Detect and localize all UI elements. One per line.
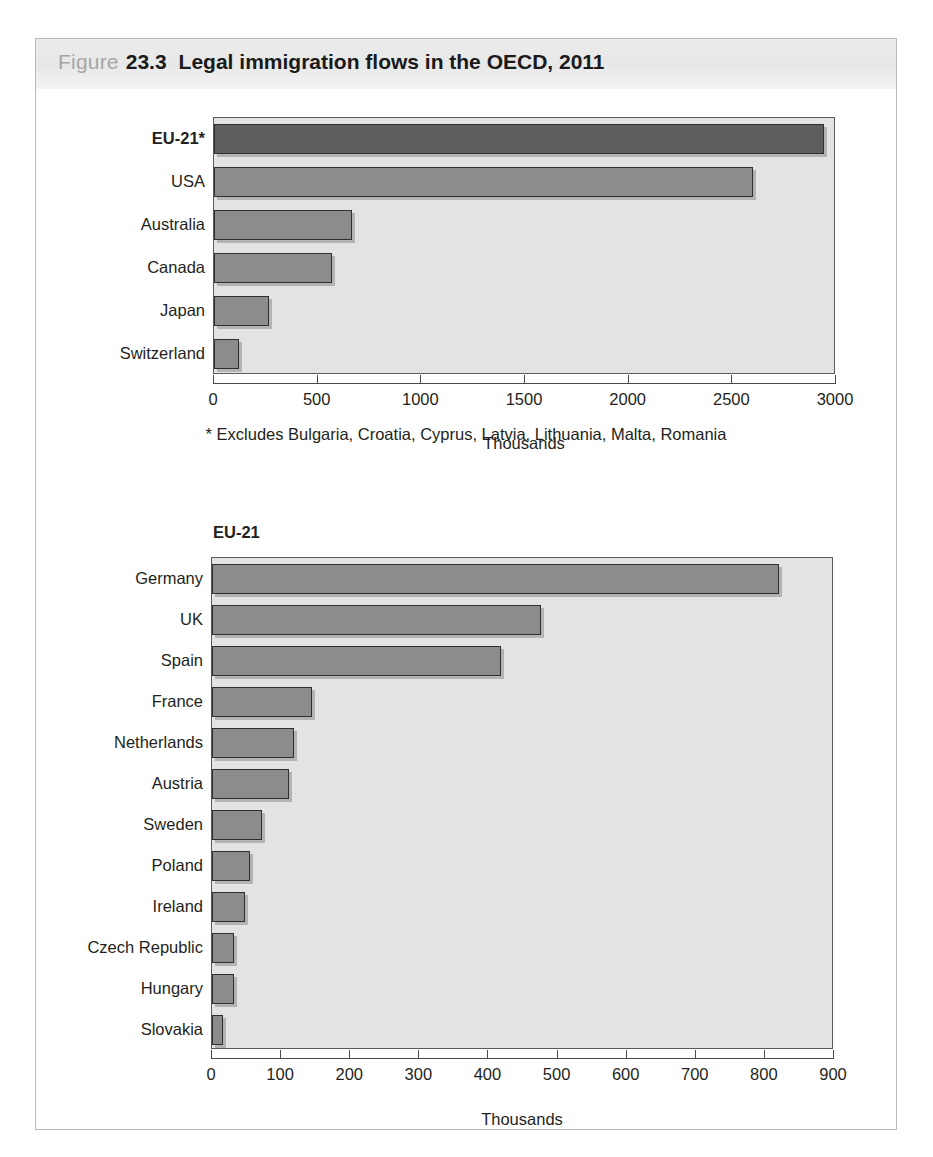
bar[interactable]	[212, 564, 779, 594]
axis-tick-label: 300	[378, 1066, 458, 1083]
axis-tick-label: 0	[171, 1066, 251, 1083]
bar-row	[212, 728, 832, 758]
category-label: Slovakia	[36, 1021, 203, 1038]
axis-tick	[420, 375, 421, 384]
bar[interactable]	[214, 210, 352, 240]
category-label: Japan	[36, 302, 205, 319]
bar[interactable]	[214, 124, 824, 154]
category-label: Germany	[36, 570, 203, 587]
axis-line	[211, 1058, 833, 1059]
category-label: Czech Republic	[36, 939, 203, 956]
axis-tick-label: 600	[586, 1066, 666, 1083]
figure-label: Figure	[58, 50, 119, 73]
axis-tick	[317, 375, 318, 384]
bar[interactable]	[212, 810, 262, 840]
category-label: Spain	[36, 652, 203, 669]
figure-number: 23.3	[126, 50, 167, 73]
axis-tick	[833, 1050, 834, 1059]
x-axis-title-bottom: Thousands	[211, 1110, 833, 1129]
bar-row	[212, 605, 832, 635]
axis-tick-label: 2000	[588, 391, 668, 408]
plot-area-top	[213, 117, 835, 374]
axis-tick-label: 400	[447, 1066, 527, 1083]
bar[interactable]	[212, 933, 234, 963]
axis-tick-label: 200	[309, 1066, 389, 1083]
axis-tick-label: 3000	[795, 391, 875, 408]
figure-footnote: * Excludes Bulgaria, Croatia, Cyprus, La…	[76, 425, 856, 444]
chart-subtitle-eu21: EU-21	[213, 523, 260, 542]
bar[interactable]	[212, 728, 294, 758]
bar[interactable]	[214, 296, 269, 326]
category-label: Poland	[36, 857, 203, 874]
category-label: Hungary	[36, 980, 203, 997]
category-label: Sweden	[36, 816, 203, 833]
bar-row	[212, 687, 832, 717]
bar[interactable]	[212, 892, 245, 922]
bar-row	[214, 124, 834, 154]
axis-tick	[628, 375, 629, 384]
axis-tick	[764, 1050, 765, 1059]
bar[interactable]	[214, 253, 332, 283]
bar-row	[214, 253, 834, 283]
category-label: EU-21*	[36, 130, 205, 147]
bar[interactable]	[212, 851, 250, 881]
bar[interactable]	[212, 646, 501, 676]
axis-tick	[835, 375, 836, 384]
axis-tick	[211, 1050, 212, 1059]
axis-tick-label: 700	[655, 1066, 735, 1083]
bar-row	[212, 933, 832, 963]
axis-tick	[213, 375, 214, 384]
bar[interactable]	[212, 769, 289, 799]
axis-tick	[280, 1050, 281, 1059]
axis-tick	[487, 1050, 488, 1059]
axis-tick	[626, 1050, 627, 1059]
category-label: Switzerland	[36, 345, 205, 362]
bar-row	[212, 1015, 832, 1045]
bar-row	[212, 564, 832, 594]
category-label: Netherlands	[36, 734, 203, 751]
bar-row	[214, 167, 834, 197]
axis-tick-label: 1500	[484, 391, 564, 408]
bar[interactable]	[212, 974, 234, 1004]
axis-tick-label: 1000	[380, 391, 460, 408]
category-label: France	[36, 693, 203, 710]
axis-tick	[695, 1050, 696, 1059]
category-label: Ireland	[36, 898, 203, 915]
axis-tick	[557, 1050, 558, 1059]
axis-tick-label: 800	[724, 1066, 804, 1083]
axis-tick-label: 100	[240, 1066, 320, 1083]
bar[interactable]	[214, 167, 753, 197]
plot-area-bottom	[211, 557, 833, 1049]
category-label: Austria	[36, 775, 203, 792]
axis-tick	[349, 1050, 350, 1059]
bar-row	[212, 892, 832, 922]
bar-row	[212, 974, 832, 1004]
axis-tick	[418, 1050, 419, 1059]
bar[interactable]	[212, 605, 541, 635]
axis-tick-label: 0	[173, 391, 253, 408]
chart-eu21-detail: EU-21 GermanyUKSpainFranceNetherlandsAus…	[36, 499, 898, 1119]
axis-tick	[524, 375, 525, 384]
category-label: UK	[36, 611, 203, 628]
bar-row	[212, 646, 832, 676]
figure-frame: Figure23.3Legal immigration flows in the…	[35, 38, 897, 1130]
bar-row	[212, 810, 832, 840]
axis-tick-label: 900	[793, 1066, 873, 1083]
bar-row	[214, 210, 834, 240]
figure-header: Figure23.3Legal immigration flows in the…	[36, 39, 896, 89]
bar[interactable]	[212, 687, 312, 717]
bar-row	[212, 851, 832, 881]
bar-row	[214, 296, 834, 326]
bar-row	[214, 339, 834, 369]
axis-tick-label: 2500	[691, 391, 771, 408]
axis-tick	[731, 375, 732, 384]
bar-row	[212, 769, 832, 799]
bar[interactable]	[214, 339, 239, 369]
axis-tick-label: 500	[277, 391, 357, 408]
category-label: USA	[36, 173, 205, 190]
bar[interactable]	[212, 1015, 223, 1045]
category-label: Canada	[36, 259, 205, 276]
category-label: Australia	[36, 216, 205, 233]
figure-caption: Figure23.3Legal immigration flows in the…	[58, 50, 605, 74]
axis-tick-label: 500	[517, 1066, 597, 1083]
